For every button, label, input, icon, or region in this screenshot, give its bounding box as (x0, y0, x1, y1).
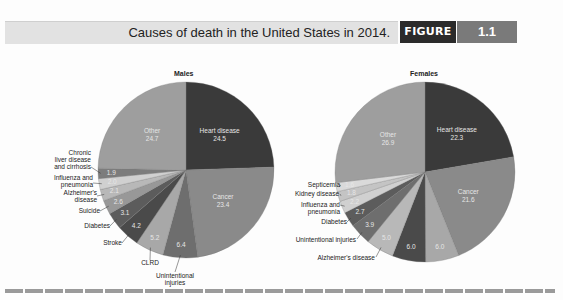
slice-label: Other (380, 131, 397, 138)
slice-callout-label: Suicide (79, 207, 101, 214)
slice-callout-label: liver disease (55, 156, 92, 163)
slice-callout-label: disease (75, 196, 98, 203)
slice-value: 6.0 (435, 243, 444, 250)
slice-callout-label: Diabetes (321, 218, 347, 225)
slice-callout-label: injuries (165, 279, 186, 287)
slice-callout-label: Stroke (103, 239, 122, 246)
slice-label: Cancer (458, 188, 480, 195)
slice-value: 1.9 (107, 169, 116, 176)
slice-value: 22.3 (451, 134, 464, 141)
slice-callout-label: Diabetes (84, 222, 110, 229)
pie-slice (186, 82, 274, 170)
slice-value: 5.2 (150, 234, 159, 241)
slice-value: 6.4 (177, 241, 186, 248)
slice-value: 2.1 (110, 187, 119, 194)
slice-callout-label: Kidney disease (295, 190, 339, 198)
slice-callout-label: pneumonia (308, 208, 341, 216)
slice-value: 2.6 (114, 198, 123, 205)
slice-callout-label: Unintentional injuries (296, 236, 357, 244)
slice-label: Other (144, 127, 161, 134)
slice-value: 21.6 (462, 196, 475, 203)
slice-callout-label: Chronic (69, 149, 92, 156)
slice-value: 4.2 (132, 222, 141, 229)
slice-value: 2.0 (108, 178, 117, 185)
decorative-bottom-bar (5, 289, 555, 293)
slice-callout-label: pneumonia (61, 181, 94, 189)
males-pie: Heart disease24.5Cancer23.46.4Unintentio… (54, 82, 274, 287)
slice-label: Heart disease (200, 127, 240, 134)
slice-value: 24.5 (213, 135, 226, 142)
slice-value: 2.7 (356, 208, 365, 215)
slice-callout-label: Influenza and (301, 201, 340, 208)
slice-value: 26.9 (382, 139, 395, 146)
pie-charts: Heart disease24.5Cancer23.46.4Unintentio… (0, 0, 563, 300)
slice-value: 1.8 (347, 189, 356, 196)
slice-callout-label: and cirrhosis (54, 163, 92, 170)
slice-label: Heart disease (437, 126, 477, 133)
pie-slice (186, 167, 274, 257)
slice-value: 2.2 (350, 198, 359, 205)
slice-value: 6.0 (407, 243, 416, 250)
slice-callout-label: Alzheimer's disease (317, 254, 375, 261)
slice-value: 3.1 (120, 209, 129, 216)
slice-value: 1.6 (345, 181, 354, 188)
slice-callout-label: Influenza and (54, 174, 93, 181)
slice-label: Cancer (212, 193, 234, 200)
slice-callout-label: Unintentional (156, 272, 194, 279)
slice-value: 3.9 (365, 221, 374, 228)
pie-slice (98, 82, 186, 170)
slice-value: 5.0 (382, 234, 391, 241)
females-pie: Heart disease22.3Cancer21.66.06.05.0Alzh… (295, 82, 515, 262)
slice-callout-label: Alzheimer's (64, 189, 98, 196)
callout-line (122, 234, 129, 243)
slice-value: 23.4 (217, 201, 230, 208)
slice-callout-label: CLRD (141, 259, 159, 266)
slice-value: 24.7 (146, 135, 159, 142)
